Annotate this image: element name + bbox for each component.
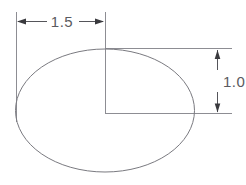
vertical-dimension-label: 1.0 (223, 73, 245, 90)
horizontal-dimension-label: 1.5 (51, 13, 73, 30)
vertical-dimension-arrow-top (215, 50, 221, 59)
vertical-dimension-1-0: 1.0 (215, 50, 246, 113)
engineering-drawing-canvas: 1.5 1.0 (0, 0, 246, 185)
horizontal-dimension-1-5: 1.5 (17, 13, 104, 30)
vertical-dimension-arrow-bottom (215, 104, 221, 113)
horizontal-dimension-arrow-left (17, 19, 26, 25)
horizontal-dimension-arrow-right (95, 19, 104, 25)
